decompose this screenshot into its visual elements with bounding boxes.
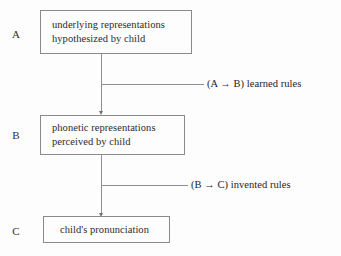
edge-label-b-to-c: (B → C) invented rules	[191, 179, 291, 191]
stage-label-c: C	[8, 226, 24, 237]
stage-label-a: A	[8, 29, 24, 40]
edge-b-to-c-vertical	[101, 155, 102, 213]
node-b-line-2: perceived by child	[41, 135, 184, 149]
node-box-c[interactable]: child's pronunciation	[43, 216, 170, 243]
node-box-a[interactable]: underlying representations hypothesized …	[40, 10, 192, 54]
edge-b-to-c-branch	[101, 185, 188, 186]
node-b-line-1: phonetic representations	[41, 121, 184, 135]
node-c-line-1: child's pronunciation	[44, 223, 169, 237]
node-box-b[interactable]: phonetic representations perceived by ch…	[40, 115, 185, 155]
node-a-line-1: underlying representations	[41, 18, 191, 32]
stage-label-b: B	[8, 130, 24, 141]
edge-a-to-b-branch	[101, 84, 204, 85]
edge-label-a-to-b: (A → B) learned rules	[207, 78, 301, 90]
edge-a-to-b-vertical	[101, 54, 102, 111]
node-a-line-2: hypothesized by child	[41, 32, 191, 46]
flow-diagram: A underlying representations hypothesize…	[0, 0, 341, 256]
